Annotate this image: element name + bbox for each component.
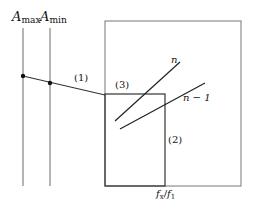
diagram-graphic xyxy=(0,0,254,210)
segment-1-label: (1) xyxy=(74,73,88,83)
inner-rectangle xyxy=(105,94,165,186)
curve-n-minus-1 xyxy=(120,83,205,129)
curve-n-label: n xyxy=(171,55,177,65)
a-min-point xyxy=(48,81,52,85)
segment-1-line xyxy=(23,76,105,95)
diagram-canvas: Amax Amin (1) (3) (2) n n − 1 fx/f1 xyxy=(0,0,254,210)
outer-frame xyxy=(105,21,241,186)
curve-n xyxy=(115,62,180,121)
a-max-point xyxy=(21,74,25,78)
segment-2-label: (2) xyxy=(168,135,182,145)
curve-n-minus-1-label: n − 1 xyxy=(183,93,211,103)
x-axis-label: fx/f1 xyxy=(156,189,175,201)
segment-3-label: (3) xyxy=(115,80,129,90)
a-max-label: Amax xyxy=(12,10,41,25)
a-min-label: Amin xyxy=(40,10,67,25)
